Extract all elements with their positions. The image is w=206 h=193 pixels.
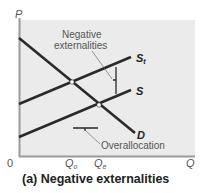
s-curve-label: S xyxy=(136,85,144,97)
q-axis-label: Q xyxy=(186,157,195,169)
market-equilibrium-point xyxy=(97,103,101,107)
overallocation-label: Overallocation xyxy=(101,140,165,151)
negative-externalities-label-line2: externalities xyxy=(54,40,107,51)
q-equilibrium-label: Qe xyxy=(94,157,107,170)
origin-label: 0 xyxy=(7,157,13,169)
optimal-equilibrium-point xyxy=(70,80,74,84)
externalities-chart: P 0 Q Qo Qe St S D Negative externalitie… xyxy=(0,0,206,193)
p-axis-label: P xyxy=(15,8,23,20)
q-optimal-label: Qo xyxy=(65,157,78,170)
negative-externalities-label-line1: Negative xyxy=(62,29,102,40)
chart-caption: (a) Negative externalities xyxy=(22,172,169,186)
